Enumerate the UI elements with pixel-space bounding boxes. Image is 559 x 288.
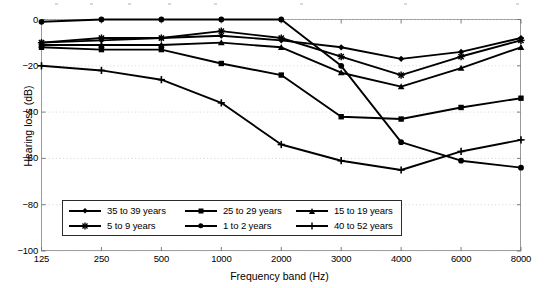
x-tick-label: 6000 bbox=[438, 254, 484, 264]
x-tick-label: 500 bbox=[138, 254, 184, 264]
legend-label: 5 to 9 years bbox=[107, 221, 155, 231]
x-tick-label: 125 bbox=[19, 254, 65, 264]
plus-marker-icon bbox=[294, 220, 330, 232]
legend-item-40-to-52-years[interactable]: 40 to 52 years bbox=[294, 218, 397, 233]
legend: 35 to 39 years 25 to 29 years 15 to 19 y… bbox=[62, 200, 402, 236]
hearing-loss-line-chart: Hearing loss (dB) Frequency band (Hz) 0−… bbox=[0, 0, 559, 288]
y-tick-label: −20 bbox=[4, 61, 38, 71]
scan-artifacts bbox=[0, 0, 559, 10]
x-tick-label: 4000 bbox=[378, 254, 424, 264]
square-marker-icon bbox=[183, 205, 219, 217]
legend-item-1-to-2-years[interactable]: 1 to 2 years bbox=[183, 218, 294, 233]
legend-label: 35 to 39 years bbox=[107, 206, 166, 216]
diamond-marker-icon bbox=[67, 205, 103, 217]
x-tick-label: 250 bbox=[78, 254, 124, 264]
star-marker-icon bbox=[67, 220, 103, 232]
legend-item-35-to-39-years[interactable]: 35 to 39 years bbox=[67, 203, 183, 218]
y-tick-label: −80 bbox=[4, 200, 38, 210]
legend-label: 25 to 29 years bbox=[223, 206, 282, 216]
legend-label: 1 to 2 years bbox=[223, 221, 271, 231]
x-axis-label: Frequency band (Hz) bbox=[0, 270, 559, 282]
legend-item-5-to-9-years[interactable]: 5 to 9 years bbox=[67, 218, 183, 233]
legend-item-15-to-19-years[interactable]: 15 to 19 years bbox=[294, 203, 397, 218]
x-tick-label: 1000 bbox=[198, 254, 244, 264]
star-glyph bbox=[81, 221, 90, 230]
y-axis-ticks: 0−20−40−60−80−100 bbox=[0, 0, 38, 288]
y-tick-label: −40 bbox=[4, 107, 38, 117]
plus-glyph bbox=[307, 221, 316, 230]
legend-label: 15 to 19 years bbox=[334, 206, 393, 216]
y-tick-label: 0 bbox=[4, 15, 38, 25]
legend-row: 35 to 39 years 25 to 29 years 15 to 19 y… bbox=[67, 203, 397, 218]
x-tick-label: 8000 bbox=[498, 254, 544, 264]
x-tick-label: 3000 bbox=[318, 254, 364, 264]
triangle-marker-icon bbox=[294, 205, 330, 217]
legend-item-25-to-29-years[interactable]: 25 to 29 years bbox=[183, 203, 294, 218]
legend-row: 5 to 9 years 1 to 2 years 40 to 52 years bbox=[67, 218, 397, 233]
circle-marker-icon bbox=[183, 220, 219, 232]
legend-label: 40 to 52 years bbox=[334, 221, 393, 231]
y-tick-label: −60 bbox=[4, 153, 38, 163]
x-tick-label: 2000 bbox=[258, 254, 304, 264]
